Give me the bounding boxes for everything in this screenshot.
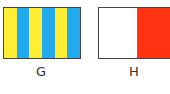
stripe-blue: [42, 8, 55, 58]
stripe-white: [99, 8, 137, 58]
stripe-yellow: [29, 8, 42, 58]
stripe-yellow: [55, 8, 68, 58]
flag-h-label: H: [124, 64, 144, 79]
flag-h: [98, 7, 170, 59]
flag-g: [3, 7, 81, 59]
stripe-red: [137, 8, 170, 58]
stripe-blue: [67, 8, 80, 58]
flag-g-label: G: [31, 64, 51, 79]
stripe-blue: [17, 8, 30, 58]
stripe-yellow: [4, 8, 17, 58]
